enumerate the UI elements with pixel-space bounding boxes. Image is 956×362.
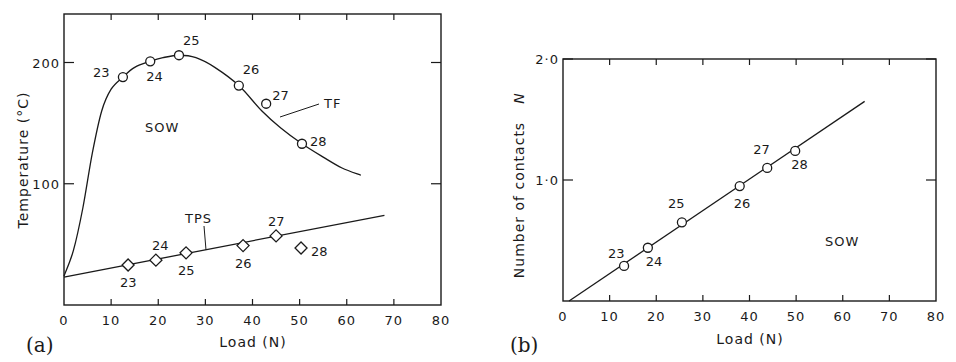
circle-marker [620, 261, 629, 270]
x-tick-label: 70 [385, 313, 404, 328]
diamond-marker [295, 242, 307, 254]
point-label: 24 [646, 254, 663, 269]
chart-a-x-axis-title: Load (N) [219, 334, 286, 350]
x-tick-label: 70 [880, 309, 899, 324]
chart-a-tps-label: TPS [184, 211, 212, 226]
x-tick-label: 60 [833, 309, 852, 324]
y-tick-label: 2·0 [535, 52, 559, 67]
chart-b-x-axis-title: Load (N) [716, 331, 783, 347]
diamond-marker [270, 230, 282, 242]
x-tick-label: 40 [243, 313, 262, 328]
y-tick-label: 1·0 [535, 173, 559, 188]
chart-b-sow-label: SOW [825, 234, 859, 249]
chart-b-y-axis-title: Number of contacts N [511, 92, 527, 278]
diamond-marker [122, 259, 134, 271]
chart-a-temperature-vs-load: 01020304050607080100200 2324252627282324… [15, 14, 450, 357]
point-label: 26 [734, 196, 751, 211]
point-label: 25 [183, 33, 200, 48]
circle-marker [763, 163, 772, 172]
x-tick-label: 20 [149, 313, 168, 328]
chart-a-tps-leader [204, 226, 206, 250]
x-tick-label: 60 [337, 313, 356, 328]
chart-b-curves [569, 101, 865, 301]
chart-a-axes-frame [64, 14, 441, 305]
chart-b-axes-frame [563, 59, 936, 301]
y-tick-label: 200 [32, 56, 60, 71]
plot-frame [64, 14, 441, 305]
chart-a-tf-leader [280, 104, 319, 117]
circle-marker [146, 57, 155, 66]
chart-a-tf-label: TF [323, 96, 341, 111]
diamond-marker [150, 254, 162, 266]
circle-marker [118, 73, 127, 82]
fit-curve-number-of-contacts [569, 101, 865, 301]
x-tick-label: 10 [600, 309, 619, 324]
fit-curve-tf [64, 55, 361, 276]
panel-label-a: (a) [26, 333, 54, 357]
circle-marker [643, 243, 652, 252]
chart-a-sow-label: SOW [145, 120, 179, 135]
x-tick-label: 20 [647, 309, 666, 324]
panel-label-b: (b) [510, 333, 538, 357]
point-label: 28 [311, 244, 328, 259]
chart-a-ticks: 01020304050607080100200 [32, 14, 450, 328]
point-label: 24 [146, 69, 163, 84]
x-tick-label: 0 [558, 309, 567, 324]
point-label: 24 [152, 238, 169, 253]
plot-frame [563, 59, 936, 301]
point-label: 27 [272, 88, 289, 103]
x-tick-label: 80 [432, 313, 451, 328]
x-tick-label: 10 [102, 313, 121, 328]
x-tick-label: 50 [787, 309, 806, 324]
y-tick-label: 100 [32, 177, 60, 192]
chart-b-markers: 232425262728 [608, 142, 808, 271]
circle-marker [262, 99, 271, 108]
circle-marker [234, 81, 243, 90]
x-tick-label: 30 [196, 313, 215, 328]
circle-marker [735, 182, 744, 191]
point-label: 25 [668, 196, 685, 211]
x-tick-label: 80 [927, 309, 946, 324]
point-label: 26 [243, 62, 260, 77]
x-tick-label: 0 [59, 313, 68, 328]
point-label: 27 [268, 214, 285, 229]
circle-marker [297, 139, 306, 148]
point-label: 27 [753, 142, 770, 157]
circle-marker [677, 218, 686, 227]
point-label: 23 [93, 65, 110, 80]
diamond-marker [180, 247, 192, 259]
point-label: 28 [310, 134, 327, 149]
figure: 01020304050607080100200 2324252627282324… [0, 0, 956, 362]
x-tick-label: 30 [694, 309, 713, 324]
x-tick-label: 40 [740, 309, 759, 324]
chart-a-y-axis-title: Temperature (°C) [15, 92, 31, 230]
point-label: 23 [120, 275, 137, 290]
fit-curve-tps [64, 215, 384, 277]
point-label: 23 [608, 246, 625, 261]
point-label: 26 [235, 256, 252, 271]
chart-a-curves [64, 55, 384, 277]
point-label: 28 [791, 157, 808, 172]
x-tick-label: 50 [290, 313, 309, 328]
chart-b-y-axis-title-symbol: N [511, 92, 527, 103]
chart-b-y-axis-title-text: Number of contacts [511, 122, 527, 278]
chart-b-contacts-vs-load: 010203040506070801·02·0 232425262728 (b)… [510, 52, 945, 357]
circle-marker [791, 146, 800, 155]
point-label: 25 [178, 263, 195, 278]
circle-marker [174, 51, 183, 60]
